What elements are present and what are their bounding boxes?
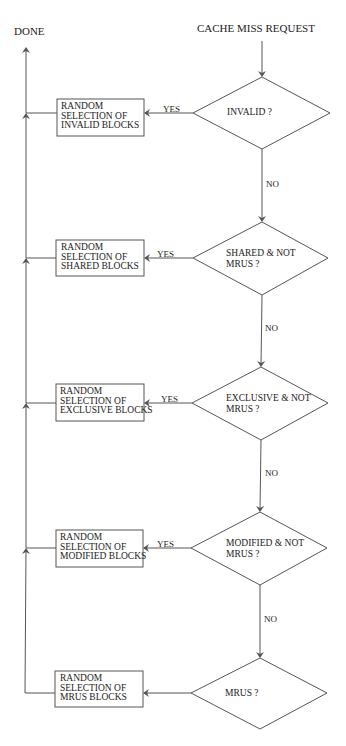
- decision-line1: MODIFIED & NOT: [226, 538, 304, 549]
- bus-segment-5: [25, 549, 26, 693]
- action-text-exclusive: RANDOM SELECTION OF EXCLUSIVE BLOCKS: [60, 387, 153, 416]
- action-line: EXCLUSIVE BLOCKS: [60, 406, 153, 416]
- decision-text-exclusive: EXCLUSIVE & NOT MRUS ?: [226, 393, 310, 415]
- action-text-shared: RANDOM SELECTION OF SHARED BLOCKS: [61, 243, 139, 272]
- yes-label-3: YES: [161, 395, 178, 404]
- decision-text-shared: SHARED & NOT MRUS ?: [226, 248, 296, 270]
- start-label: CACHE MISS REQUEST: [197, 23, 315, 34]
- no-label-1: NO: [266, 180, 279, 189]
- action-text-invalid: RANDOM SELECTION OF INVALID BLOCKS: [61, 102, 139, 131]
- no-arrow-2: [261, 295, 262, 366]
- decision-line1: INVALID ?: [227, 107, 272, 117]
- action-text-modified: RANDOM SELECTION OF MODIFIED BLOCKS: [60, 533, 146, 562]
- action-line: SHARED BLOCKS: [61, 262, 139, 272]
- action-line: MODIFIED BLOCKS: [60, 552, 146, 562]
- action-line: MRUS BLOCKS: [60, 693, 127, 703]
- action-line: INVALID BLOCKS: [61, 121, 139, 131]
- decision-line2: MRUS ?: [226, 549, 304, 560]
- decision-text-mrus: MRUS ?: [225, 688, 259, 699]
- decision-line1: SHARED & NOT: [226, 248, 296, 259]
- decision-line1: MRUS ?: [225, 688, 259, 698]
- decision-diamond-mrus: [191, 658, 327, 729]
- decision-text-invalid: INVALID ?: [227, 107, 272, 118]
- decision-text-modified: MODIFIED & NOT MRUS ?: [226, 538, 304, 560]
- yes-label-4: YES: [157, 540, 174, 549]
- decision-line2: MRUS ?: [226, 404, 310, 415]
- decision-line2: MRUS ?: [226, 259, 296, 270]
- action-text-mrus: RANDOM SELECTION OF MRUS BLOCKS: [60, 674, 127, 703]
- no-label-4: NO: [264, 615, 277, 624]
- yes-label-2: YES: [157, 250, 174, 259]
- no-label-2: NO: [265, 324, 278, 333]
- yes-label-1: YES: [163, 105, 180, 114]
- no-label-3: NO: [265, 469, 278, 478]
- no-arrow-3: [260, 440, 261, 511]
- decision-line1: EXCLUSIVE & NOT: [226, 393, 310, 404]
- done-label: DONE: [14, 26, 45, 37]
